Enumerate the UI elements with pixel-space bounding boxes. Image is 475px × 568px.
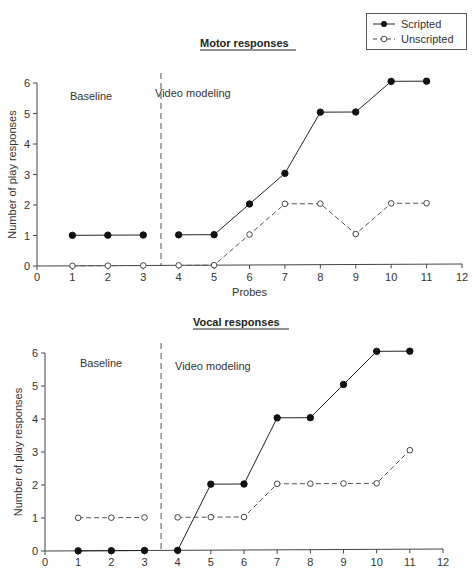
data-point-scripted xyxy=(282,170,288,176)
x-tick-label: 2 xyxy=(105,271,111,283)
data-point-scripted xyxy=(75,548,81,554)
data-point-scripted xyxy=(208,481,214,487)
phase-label-video-modeling: Video modeling xyxy=(175,360,251,372)
data-point-scripted xyxy=(108,547,114,553)
data-point-unscripted xyxy=(341,481,347,487)
data-point-unscripted xyxy=(211,262,217,268)
data-point-scripted xyxy=(407,348,413,354)
data-point-scripted xyxy=(105,232,111,238)
y-axis-label: Number of play responses xyxy=(6,110,18,239)
data-point-scripted xyxy=(241,481,247,487)
x-tick-label: 0 xyxy=(42,556,48,568)
x-tick-label: 6 xyxy=(246,271,252,283)
x-tick-label: 8 xyxy=(307,556,313,568)
data-point-scripted xyxy=(140,232,146,238)
phase-label-video-modeling: Video modeling xyxy=(155,87,231,99)
data-point-scripted xyxy=(141,547,147,553)
x-tick-label: 9 xyxy=(340,556,346,568)
data-point-unscripted xyxy=(105,263,111,269)
x-axis-label: Probes xyxy=(232,286,267,298)
data-point-unscripted xyxy=(75,515,81,521)
x-tick-label: 1 xyxy=(75,556,81,568)
y-tick-label: 0 xyxy=(32,545,38,557)
data-point-unscripted xyxy=(109,515,115,521)
series-line-scripted xyxy=(179,81,427,235)
x-tick-label: 11 xyxy=(404,556,415,568)
data-point-unscripted xyxy=(424,200,430,206)
data-point-scripted xyxy=(246,201,252,207)
data-point-scripted xyxy=(340,381,346,387)
data-point-scripted xyxy=(317,109,323,115)
data-point-scripted xyxy=(353,109,359,115)
phase-label-baseline: Baseline xyxy=(80,357,122,369)
data-point-scripted xyxy=(211,231,217,237)
data-point-scripted xyxy=(274,415,280,421)
data-point-unscripted xyxy=(241,514,247,520)
data-point-unscripted xyxy=(308,481,314,487)
y-tick-label: 1 xyxy=(24,230,30,242)
y-tick-label: 2 xyxy=(32,479,38,491)
data-point-unscripted xyxy=(175,515,181,521)
data-point-scripted xyxy=(388,78,394,84)
data-point-unscripted xyxy=(208,514,214,520)
data-point-unscripted xyxy=(353,231,359,237)
x-tick-label: 9 xyxy=(353,271,359,283)
y-tick-label: 4 xyxy=(32,413,38,425)
x-tick-label: 0 xyxy=(34,271,40,283)
x-tick-label: 4 xyxy=(175,556,181,568)
x-tick-label: 8 xyxy=(317,271,323,283)
data-point-scripted xyxy=(423,78,429,84)
chart-title: Motor responses xyxy=(200,37,289,49)
x-tick-label: 4 xyxy=(176,271,182,283)
x-tick-label: 2 xyxy=(108,556,114,568)
chart-title: Vocal responses xyxy=(193,316,280,328)
x-tick-label: 3 xyxy=(140,271,146,283)
y-tick-label: 4 xyxy=(24,138,30,150)
phase-label-baseline: Baseline xyxy=(70,90,112,102)
y-tick-label: 6 xyxy=(32,347,38,359)
data-point-unscripted xyxy=(318,201,324,207)
data-point-scripted xyxy=(307,414,313,420)
data-point-unscripted xyxy=(247,232,253,238)
x-tick-label: 7 xyxy=(274,556,280,568)
data-point-unscripted xyxy=(282,201,288,207)
data-point-scripted xyxy=(373,348,379,354)
data-point-scripted xyxy=(174,547,180,553)
chart-canvas: Motor responses01234567891011120123456Nu… xyxy=(0,0,475,568)
y-tick-label: 6 xyxy=(24,77,30,89)
data-point-unscripted xyxy=(407,447,413,453)
x-tick-label: 5 xyxy=(211,271,217,283)
y-tick-label: 3 xyxy=(24,169,30,181)
x-tick-label: 11 xyxy=(421,271,432,283)
data-point-unscripted xyxy=(70,263,76,269)
x-tick-label: 7 xyxy=(282,271,288,283)
data-point-unscripted xyxy=(388,201,394,207)
y-tick-label: 5 xyxy=(24,108,30,120)
data-point-unscripted xyxy=(274,481,280,487)
x-tick-label: 5 xyxy=(208,556,214,568)
data-point-unscripted xyxy=(142,515,148,521)
y-tick-label: 3 xyxy=(32,446,38,458)
y-tick-label: 5 xyxy=(32,380,38,392)
x-tick-label: 3 xyxy=(141,556,147,568)
data-point-unscripted xyxy=(140,263,146,269)
chart-vocal: Vocal responses01234567891011120123456Nu… xyxy=(12,316,449,568)
x-tick-label: 1 xyxy=(69,271,75,283)
y-tick-label: 2 xyxy=(24,199,30,211)
x-tick-label: 10 xyxy=(385,271,397,283)
x-tick-label: 10 xyxy=(371,556,383,568)
y-tick-label: 0 xyxy=(24,260,30,272)
data-point-scripted xyxy=(69,232,75,238)
data-point-unscripted xyxy=(374,481,380,487)
x-tick-label: 12 xyxy=(456,271,468,283)
y-axis-label: Number of play responses xyxy=(12,387,24,516)
x-tick-label: 6 xyxy=(241,556,247,568)
data-point-unscripted xyxy=(176,263,182,269)
chart-motor: Motor responses01234567891011120123456Nu… xyxy=(6,37,468,298)
series-line-scripted xyxy=(178,351,410,550)
y-tick-label: 1 xyxy=(32,512,38,524)
data-point-scripted xyxy=(175,232,181,238)
x-tick-label: 12 xyxy=(437,556,449,568)
